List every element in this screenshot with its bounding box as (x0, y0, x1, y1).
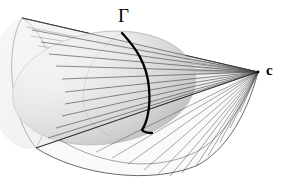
cone-ellipsoid-illustration (0, 0, 284, 186)
diagram-canvas: Γ c (0, 0, 284, 186)
label-apex-c: c (266, 63, 273, 78)
label-gamma: Γ (118, 6, 129, 25)
apex-point-marker (257, 71, 260, 74)
